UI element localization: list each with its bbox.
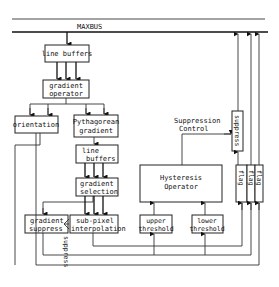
- suppress-box: suppress: [232, 111, 243, 151]
- gradient-operator-box: gradient operator: [43, 80, 89, 98]
- svg-text:upper: upper: [146, 217, 166, 225]
- svg-text:Hysteresis: Hysteresis: [160, 174, 202, 182]
- svg-text:suppress: suppress: [233, 115, 241, 146]
- flag-box-3: flag: [255, 165, 263, 202]
- suppress-vertical-annotation: suppress: [62, 236, 70, 267]
- pythagorean-gradient-box: Pythagorean gradient: [73, 115, 119, 137]
- svg-text:line: line: [82, 147, 99, 155]
- orientation-box: orientation: [13, 116, 59, 133]
- gradient-suppress-box: gradient suppress: [25, 215, 68, 233]
- svg-text:buffers: buffers: [86, 155, 116, 163]
- svg-text:threshold: threshold: [189, 225, 224, 233]
- svg-text:threshold: threshold: [138, 225, 173, 233]
- flag-box-2: flag: [247, 165, 255, 202]
- svg-text:Pythagorean: Pythagorean: [73, 118, 119, 126]
- svg-text:interpolation: interpolation: [71, 225, 126, 233]
- svg-text:sub-pixel: sub-pixel: [76, 217, 114, 225]
- svg-text:flag: flag: [255, 170, 263, 186]
- flag-box-1: flag: [236, 165, 247, 202]
- svg-text:line buffers: line buffers: [42, 50, 93, 58]
- svg-text:flag: flag: [247, 170, 255, 186]
- bus-label: MAXBUS: [77, 23, 102, 31]
- svg-text:suppress: suppress: [29, 225, 63, 233]
- svg-text:flag: flag: [237, 170, 245, 186]
- svg-text:selection: selection: [80, 188, 118, 196]
- canny-edge-detector-block-diagram: MAXBUS line buffers gradient operator or…: [0, 0, 279, 287]
- hysteresis-operator-box: Hysteresis Operator: [140, 165, 222, 202]
- svg-text:Operator: Operator: [164, 183, 198, 191]
- suppression-control-label-2: Control: [179, 125, 209, 133]
- svg-text:gradient: gradient: [79, 127, 113, 135]
- svg-text:gradient: gradient: [30, 217, 64, 225]
- svg-text:gradient: gradient: [49, 82, 83, 90]
- svg-text:gradient: gradient: [80, 180, 114, 188]
- lower-threshold-box: lower threshold: [189, 215, 224, 233]
- suppression-control-label-1: Suppression: [174, 117, 220, 125]
- fanout-lines: [30, 98, 104, 115]
- gradient-selection-box: gradient selection: [76, 178, 118, 196]
- svg-text:lower: lower: [197, 217, 217, 225]
- svg-text:orientation: orientation: [13, 121, 59, 129]
- line-buffers-mid-box: line buffers: [76, 145, 118, 163]
- subpixel-interpolation-box: sub-pixel interpolation: [70, 215, 126, 233]
- maxbus: MAXBUS: [12, 19, 268, 32]
- line-buffers-top-box: line buffers: [42, 45, 93, 62]
- upper-threshold-box: upper threshold: [138, 215, 173, 233]
- svg-text:operator: operator: [49, 90, 83, 98]
